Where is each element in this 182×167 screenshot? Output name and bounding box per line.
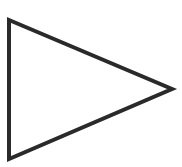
canvas <box>0 0 182 167</box>
triangle-shape <box>9 20 172 159</box>
play-triangle-icon <box>0 0 182 167</box>
